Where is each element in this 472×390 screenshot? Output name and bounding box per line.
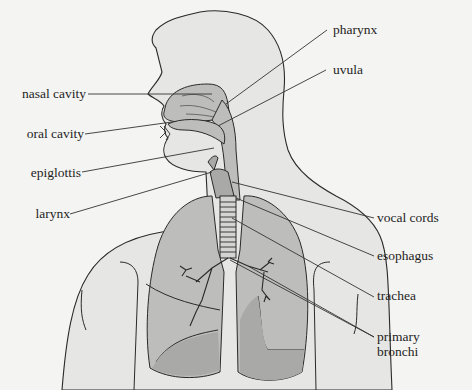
label-pharynx: pharynx	[333, 22, 377, 37]
left-lung	[146, 196, 224, 378]
label-epiglottis: epiglottis	[4, 165, 81, 180]
label-trachea: trachea	[377, 288, 416, 303]
label-vocal-cords: vocal cords	[377, 210, 439, 225]
label-primary-bronchi: primary bronchi	[377, 329, 437, 359]
label-uvula: uvula	[333, 62, 363, 77]
label-oral-cavity: oral cavity	[4, 126, 84, 141]
trachea-shape	[220, 196, 236, 258]
label-nasal-cavity: nasal cavity	[4, 86, 86, 101]
label-esophagus: esophagus	[377, 248, 433, 263]
label-larynx: larynx	[4, 206, 70, 221]
